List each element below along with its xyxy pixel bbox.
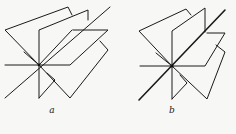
diagram-canvas: a b bbox=[0, 0, 236, 134]
plane-b-vertical bbox=[172, 8, 205, 99]
plane-b-left bbox=[139, 9, 191, 66]
label-b: b bbox=[169, 105, 175, 115]
figure-a: a bbox=[5, 7, 110, 115]
edge-a-diagonal-inner bbox=[39, 30, 72, 65]
plane-b-small-left bbox=[156, 53, 172, 66]
hub-b bbox=[170, 64, 173, 67]
plane-a-lower-right bbox=[39, 41, 108, 98]
plane-a-small-lower bbox=[39, 73, 55, 98]
plane-b-horizontal bbox=[140, 33, 225, 66]
label-a: a bbox=[49, 105, 54, 115]
figure-b: b bbox=[139, 8, 225, 115]
plane-a-small-left bbox=[24, 52, 39, 65]
hub-a bbox=[38, 64, 41, 67]
plane-a-horizontal bbox=[5, 30, 108, 65]
